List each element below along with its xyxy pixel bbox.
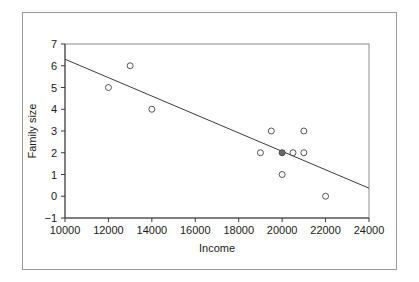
data-point-marker (279, 150, 285, 156)
scatter-chart: −101234567 10000120001400016000180002000… (0, 0, 419, 282)
y-tick-label: 5 (51, 82, 57, 94)
data-point-marker (301, 150, 307, 156)
data-points (105, 63, 328, 200)
plot-border-box (65, 44, 369, 218)
plot-area (65, 44, 369, 218)
y-tick-label: 1 (51, 169, 57, 181)
data-point-marker (105, 85, 111, 91)
x-tick-label: 24000 (354, 224, 385, 236)
data-point-marker (257, 150, 263, 156)
x-tick-label: 12000 (93, 224, 124, 236)
x-tick-label: 22000 (310, 224, 341, 236)
regression-line (65, 59, 369, 188)
y-tick-label: 7 (51, 38, 57, 50)
x-axis: 1000012000140001600018000200002200024000 (50, 218, 385, 236)
y-tick-label: 2 (51, 147, 57, 159)
data-point-marker (127, 63, 133, 69)
data-point-marker (290, 150, 296, 156)
x-tick-label: 18000 (223, 224, 254, 236)
data-point-marker (279, 172, 285, 178)
y-tick-label: −1 (44, 212, 57, 224)
x-axis-title: Income (199, 242, 235, 254)
data-point-marker (268, 128, 274, 134)
trend-line (65, 59, 369, 188)
data-point-marker (149, 106, 155, 112)
x-tick-label: 20000 (267, 224, 298, 236)
x-tick-label: 16000 (180, 224, 211, 236)
y-tick-label: 4 (51, 103, 57, 115)
y-tick-label: 6 (51, 60, 57, 72)
x-tick-label: 14000 (137, 224, 168, 236)
x-tick-label: 10000 (50, 224, 81, 236)
y-tick-label: 3 (51, 125, 57, 137)
data-point-marker (301, 128, 307, 134)
y-axis: −101234567 (44, 38, 65, 224)
figure-root: −101234567 10000120001400016000180002000… (0, 0, 419, 282)
data-point-marker (323, 193, 329, 199)
y-axis-title: Family size (26, 103, 38, 158)
y-tick-label: 0 (51, 190, 57, 202)
